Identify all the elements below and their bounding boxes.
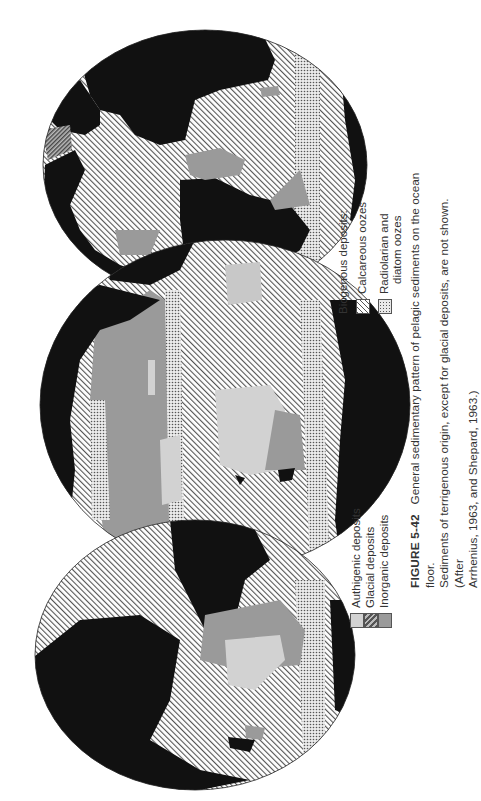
legend-item-inorganic: Inorganic deposits bbox=[378, 508, 392, 628]
figure-caption: FIGURE 5-42 General sedimentary pattern … bbox=[408, 168, 481, 588]
caption-line-1: FIGURE 5-42 General sedimentary pattern … bbox=[408, 168, 437, 588]
glacial-swatch-icon bbox=[364, 613, 378, 628]
legend-label: Inorganic deposits bbox=[378, 515, 391, 608]
legend-label: Radiolarian and bbox=[378, 213, 391, 294]
legend-label: diatom oozes bbox=[391, 213, 404, 294]
legend-label: Authigenic deposits bbox=[350, 508, 363, 608]
radiolarian-swatch-icon bbox=[378, 299, 392, 314]
legend-item-radiolarian: Radiolarian and diatom oozes bbox=[378, 202, 404, 314]
legend-label-wrap: Radiolarian and diatom oozes bbox=[378, 213, 404, 294]
legend-item-authigenic: Authigenic deposits bbox=[350, 508, 364, 628]
caption-line-2: Sediments of terrigenous origin, except … bbox=[437, 168, 466, 588]
caption-line-3: Arrhenius, 1963, and Shepard, 1963.) bbox=[466, 168, 481, 588]
inorganic-swatch-icon bbox=[378, 613, 392, 628]
figure-label: FIGURE 5-42 bbox=[408, 514, 422, 588]
legend-right: Biogenous deposits: Calcareous oozes Rad… bbox=[337, 202, 404, 314]
authigenic-swatch-icon bbox=[350, 613, 364, 628]
legend-item-glacial: Glacial deposits bbox=[364, 508, 378, 628]
legend-left: Authigenic deposits Glacial deposits Ino… bbox=[350, 508, 392, 628]
legend-title: Biogenous deposits: bbox=[337, 202, 349, 314]
calcareous-swatch-icon bbox=[356, 299, 370, 314]
legend-label: Calcareous oozes bbox=[356, 202, 369, 294]
legend-label: Glacial deposits bbox=[364, 527, 377, 608]
legend-item-calcareous: Calcareous oozes bbox=[356, 202, 370, 314]
